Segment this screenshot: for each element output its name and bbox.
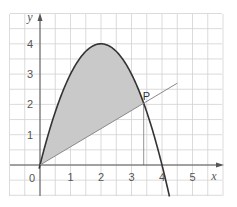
y-tick-label: 3 bbox=[27, 68, 33, 80]
graph: 123451234 x y 0 P bbox=[0, 0, 237, 207]
x-tick-label: 4 bbox=[159, 171, 165, 183]
x-tick-label: 2 bbox=[98, 171, 104, 183]
point-p-label: P bbox=[143, 90, 150, 102]
x-axis-label: x bbox=[210, 169, 217, 183]
y-axis-arrow-icon bbox=[38, 13, 43, 21]
x-tick-label: 3 bbox=[128, 171, 134, 183]
y-axis-label: y bbox=[26, 10, 33, 24]
y-tick-label: 1 bbox=[27, 129, 33, 141]
y-tick-label: 4 bbox=[27, 38, 33, 50]
x-tick-label: 1 bbox=[67, 171, 73, 183]
origin-label: 0 bbox=[29, 172, 35, 184]
y-tick-label: 2 bbox=[27, 98, 33, 110]
x-tick-label: 5 bbox=[189, 171, 195, 183]
